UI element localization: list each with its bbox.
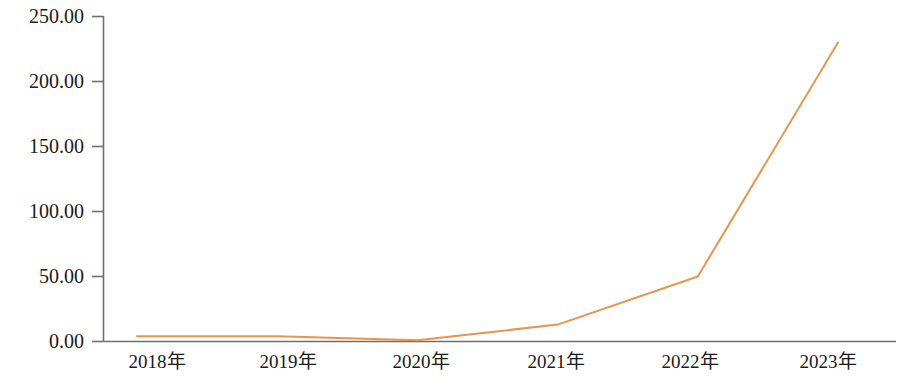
y-tick-label: 100.00 bbox=[29, 200, 84, 222]
chart-background bbox=[0, 0, 899, 379]
x-tick-label: 2019年 bbox=[260, 351, 317, 372]
y-tick-label: 0.00 bbox=[49, 330, 84, 352]
x-tick-label: 2020年 bbox=[393, 351, 450, 372]
chart-plot-area: 0.00 50.00 100.00 150.00 200.00 250.00 2… bbox=[0, 0, 899, 379]
x-tick-label: 2018年 bbox=[129, 351, 186, 372]
x-tick-label: 2023年 bbox=[800, 351, 857, 372]
y-tick-label: 150.00 bbox=[29, 135, 84, 157]
y-tick-label: 50.00 bbox=[39, 265, 84, 287]
y-tick-label: 200.00 bbox=[29, 70, 84, 92]
line-chart: 0.00 50.00 100.00 150.00 200.00 250.00 2… bbox=[0, 0, 899, 379]
x-tick-label: 2022年 bbox=[662, 351, 719, 372]
y-tick-label: 250.00 bbox=[29, 5, 84, 27]
x-tick-label: 2021年 bbox=[528, 351, 585, 372]
